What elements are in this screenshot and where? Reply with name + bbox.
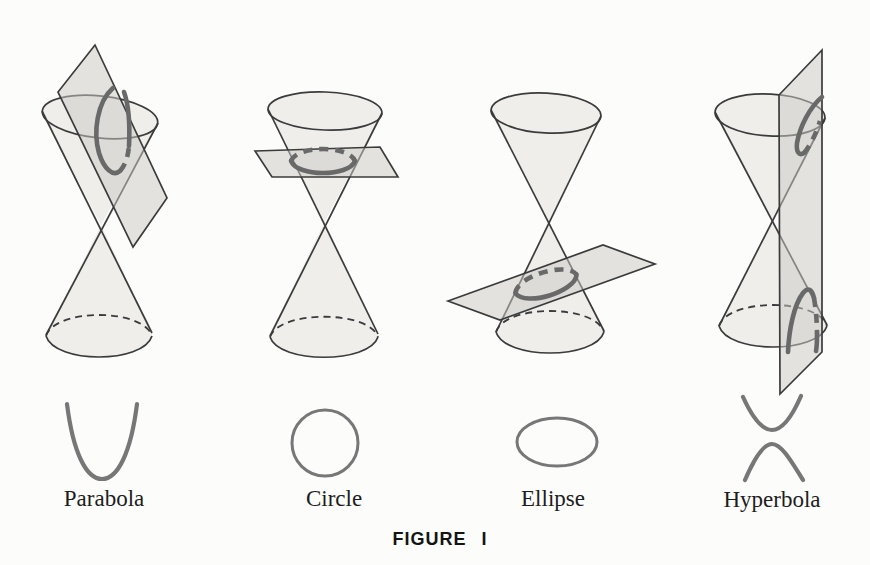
label-hyperbola: Hyperbola bbox=[723, 488, 820, 511]
parabola-curve-icon bbox=[67, 404, 137, 479]
circle-cone-diagram bbox=[255, 90, 398, 357]
parabola-cone-diagram bbox=[40, 45, 167, 357]
ellipse-curve-icon bbox=[517, 418, 597, 466]
circle-curve-icon bbox=[292, 410, 358, 476]
ellipse-cone-diagram bbox=[448, 90, 655, 353]
hyperbola-curve-icon bbox=[743, 396, 803, 480]
label-ellipse: Ellipse bbox=[521, 487, 585, 510]
figure-panel: Parabola Circle Ellipse Hyperbola FIGURE… bbox=[0, 0, 870, 565]
label-parabola: Parabola bbox=[64, 487, 144, 510]
conic-sections-illustration bbox=[0, 0, 870, 565]
double-cone bbox=[267, 90, 382, 357]
figure-caption: FIGURE I bbox=[392, 530, 487, 548]
hyperbola-cone-diagram bbox=[714, 50, 827, 394]
label-circle: Circle bbox=[306, 487, 362, 510]
